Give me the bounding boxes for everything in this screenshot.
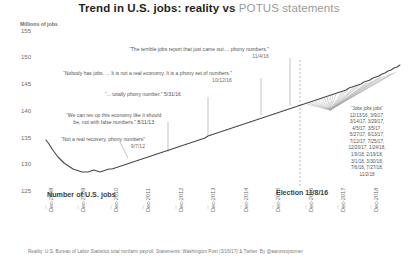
- annotation-jobs-jobs-jobs: “Jobs jobs jobs” 12/13/16, 3/9/17, 3/14/…: [334, 106, 400, 178]
- annotation-text: “... totally phony number.” 5/31/16: [105, 91, 181, 98]
- x-tick-dec-2014: Dec-2014: [243, 188, 249, 212]
- annotation-text-line2: be, not with false numbers.” 8/11/13: [66, 119, 161, 126]
- annotation-date: 10/12/16: [63, 77, 232, 84]
- annotation-text: “Not a real recovery, phony numbers”: [61, 136, 145, 143]
- annotation-not-a-real-recovery: “Not a real recovery, phony numbers” 9/7…: [61, 136, 145, 151]
- x-tick-dec-2011: Dec-2011: [145, 188, 151, 212]
- election-label: Election 11/8/16: [276, 189, 328, 196]
- annotation-terrible-jobs-report: “The terrible jobs report that just came…: [129, 46, 269, 61]
- annotation-date: 11/4/16: [129, 53, 269, 60]
- series-caption: Number of U.S. jobs: [47, 190, 116, 199]
- annotation-text: “The terrible jobs report that just came…: [129, 46, 269, 53]
- x-tick-dec-2018: Dec-2018: [373, 188, 379, 212]
- annotation-totally-phony-number: “... totally phony number.” 5/31/16: [105, 91, 181, 98]
- x-axis-ticks: [46, 205, 371, 209]
- x-tick-dec-2013: Dec-2013: [210, 188, 216, 212]
- x-tick-dec-2017: Dec-2017: [340, 188, 346, 212]
- annotation-date: 9/7/12: [61, 143, 145, 150]
- annotation-text-line1: “We can rev up this economy like it shou…: [66, 112, 161, 119]
- jobs-block-dates-line: 11/2/18: [334, 172, 400, 179]
- x-tick-dec-2012: Dec-2012: [178, 188, 184, 212]
- chart-figure: Trend in U.S. jobs: reality vs POTUS sta…: [0, 0, 418, 262]
- jobs-fan-lines: [307, 72, 396, 110]
- source-footnote: Reality: U.S. Bureau of Labor Statistics…: [28, 249, 303, 254]
- jobs-block-header: “Jobs jobs jobs”: [334, 106, 400, 113]
- annotation-rev-up-economy: “We can rev up this economy like it shou…: [66, 112, 161, 127]
- annotation-nobody-has-jobs: “Nobody has jobs. ... It is not a real e…: [63, 70, 232, 85]
- annotation-text: “Nobody has jobs. ... It is not a real e…: [63, 70, 232, 77]
